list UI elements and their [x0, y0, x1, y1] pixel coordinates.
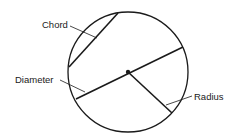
- chord-line: [69, 13, 118, 67]
- radius-line: [128, 72, 172, 113]
- chord-leader-line: [70, 26, 97, 38]
- center-point: [126, 70, 130, 74]
- circle-diagram: Chord Diameter Radius: [0, 0, 237, 138]
- diameter-label: Diameter: [15, 74, 54, 85]
- diameter-leader-line: [60, 80, 85, 92]
- chord-label: Chord: [42, 19, 68, 30]
- radius-label: Radius: [194, 91, 224, 102]
